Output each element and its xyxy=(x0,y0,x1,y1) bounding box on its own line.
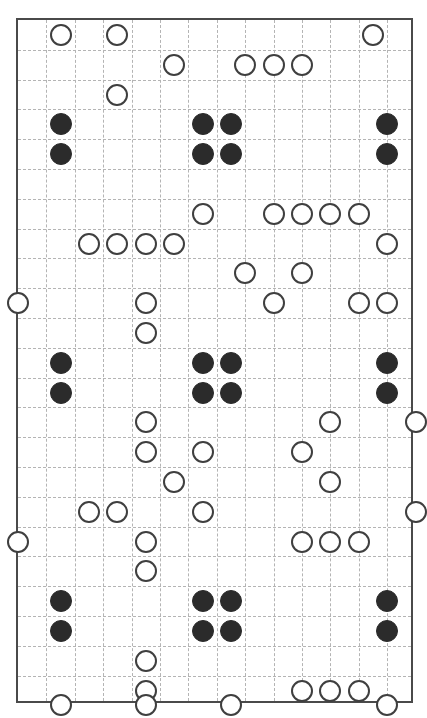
marker-filled xyxy=(192,352,214,374)
marker-open xyxy=(362,24,384,46)
marker-open xyxy=(405,411,427,433)
marker-open xyxy=(78,233,100,255)
marker-filled xyxy=(376,143,398,165)
marker-open xyxy=(376,292,398,314)
marker-open xyxy=(234,262,256,284)
marker-open xyxy=(348,680,370,702)
marker-open xyxy=(234,54,256,76)
marker-open xyxy=(135,531,157,553)
marker-open xyxy=(135,292,157,314)
marker-filled xyxy=(50,143,72,165)
marker-open xyxy=(135,441,157,463)
marker-open xyxy=(163,233,185,255)
marker-open xyxy=(78,501,100,523)
marker-filled xyxy=(220,143,242,165)
marker-filled xyxy=(192,382,214,404)
marker-open xyxy=(291,54,313,76)
marker-open xyxy=(106,501,128,523)
marker-open xyxy=(291,262,313,284)
marker-open xyxy=(405,501,427,523)
grid-board xyxy=(16,18,413,703)
marker-open xyxy=(135,694,157,716)
marker-open xyxy=(348,203,370,225)
marker-filled xyxy=(192,113,214,135)
marker-filled xyxy=(50,352,72,374)
marker-filled xyxy=(192,143,214,165)
marker-open xyxy=(319,411,341,433)
marker-filled xyxy=(50,113,72,135)
marker-open xyxy=(106,233,128,255)
marker-open xyxy=(106,84,128,106)
marker-open xyxy=(263,54,285,76)
marker-filled xyxy=(376,620,398,642)
marker-filled xyxy=(376,113,398,135)
marker-open xyxy=(135,411,157,433)
marker-open xyxy=(348,531,370,553)
marker-filled xyxy=(376,352,398,374)
marker-filled xyxy=(376,590,398,612)
marker-open xyxy=(291,441,313,463)
marker-filled xyxy=(50,382,72,404)
marker-open xyxy=(376,694,398,716)
marker-filled xyxy=(376,382,398,404)
marker-open xyxy=(291,680,313,702)
marker-filled xyxy=(220,113,242,135)
markers-layer xyxy=(18,20,411,701)
marker-open xyxy=(50,24,72,46)
marker-filled xyxy=(220,620,242,642)
page-title xyxy=(0,0,427,7)
marker-filled xyxy=(220,590,242,612)
marker-open xyxy=(7,292,29,314)
marker-open xyxy=(319,531,341,553)
marker-open xyxy=(220,694,242,716)
marker-open xyxy=(106,24,128,46)
marker-open xyxy=(263,292,285,314)
marker-filled xyxy=(50,620,72,642)
marker-open xyxy=(263,203,285,225)
marker-open xyxy=(376,233,398,255)
marker-filled xyxy=(192,620,214,642)
marker-open xyxy=(135,233,157,255)
marker-filled xyxy=(220,382,242,404)
marker-open xyxy=(50,694,72,716)
marker-open xyxy=(163,54,185,76)
marker-open xyxy=(135,322,157,344)
marker-filled xyxy=(192,590,214,612)
marker-open xyxy=(192,441,214,463)
marker-open xyxy=(291,203,313,225)
marker-open xyxy=(319,203,341,225)
marker-open xyxy=(192,203,214,225)
marker-open xyxy=(135,650,157,672)
marker-filled xyxy=(220,352,242,374)
marker-open xyxy=(163,471,185,493)
marker-open xyxy=(291,531,313,553)
marker-open xyxy=(348,292,370,314)
marker-filled xyxy=(50,590,72,612)
marker-open xyxy=(7,531,29,553)
marker-open xyxy=(319,680,341,702)
marker-open xyxy=(135,560,157,582)
marker-open xyxy=(192,501,214,523)
marker-open xyxy=(319,471,341,493)
